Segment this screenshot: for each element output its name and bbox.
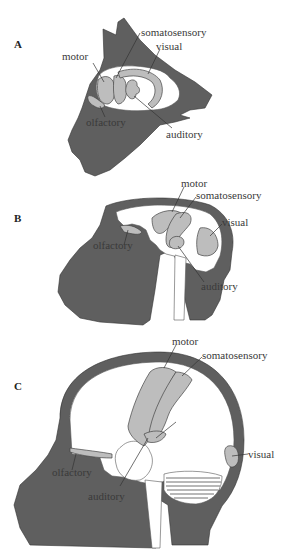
panel-b-label: B [14, 212, 22, 224]
panel-c-human: C motor somatosensory visual o [14, 335, 274, 548]
cat-somatosensory-area [113, 75, 126, 104]
human-olfactory-label: olfactory [52, 466, 92, 478]
panel-a-label: A [14, 38, 22, 50]
monkey-olfactory-label: olfactory [93, 239, 133, 251]
panel-b-monkey: B motor somatosensory visual olfactory a… [14, 177, 262, 325]
cat-visual-label: visual [156, 40, 182, 52]
comparative-brain-diagram: A motor somatosensory visual olfactory a… [0, 0, 288, 549]
human-somatosensory-label: somatosensory [202, 349, 268, 361]
monkey-auditory-area [169, 236, 184, 248]
cat-auditory-label: auditory [166, 128, 203, 140]
human-motor-label: motor [172, 335, 199, 347]
human-auditory-label: auditory [88, 490, 125, 502]
monkey-visual-label: visual [222, 216, 248, 228]
monkey-motor-label: motor [181, 177, 208, 189]
human-visual-label: visual [248, 448, 274, 460]
cat-olfactory-label: olfactory [86, 116, 126, 128]
cat-somatosensory-label: somatosensory [141, 26, 207, 38]
monkey-auditory-label: auditory [201, 280, 238, 292]
panel-c-label: C [14, 380, 22, 392]
cat-motor-area [97, 77, 114, 104]
cat-motor-label: motor [62, 50, 89, 62]
monkey-somatosensory-label: somatosensory [196, 189, 262, 201]
monkey-brainstem [174, 255, 186, 320]
human-temporal-lobe [115, 441, 152, 480]
panel-a-cat: A motor somatosensory visual olfactory a… [14, 18, 212, 176]
